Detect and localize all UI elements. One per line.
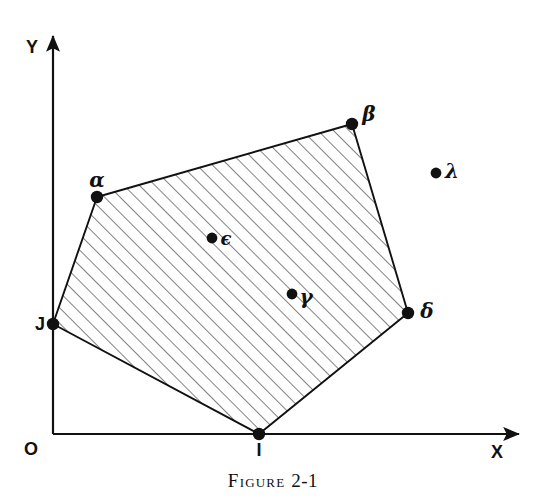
point-label-I: I [256, 441, 261, 459]
x-axis-label: X [491, 443, 503, 461]
caption-label: Figure [228, 470, 285, 491]
point-label-lambda: λ [445, 161, 459, 181]
point-gamma [287, 289, 298, 300]
point-label-J: J [35, 315, 45, 333]
point-I [253, 428, 265, 440]
figure-caption: Figure 2-1 [0, 470, 546, 492]
point-beta [346, 118, 358, 130]
point-J [47, 318, 59, 330]
point-label-beta: β [362, 104, 375, 124]
point-label-epsilon: ϵ [221, 230, 232, 248]
figure-2-1: Y X O J α β δ I ϵ γ λ Figure 2-1 [0, 0, 546, 504]
convex-hull-region [53, 124, 408, 434]
point-epsilon [207, 233, 218, 244]
point-lambda [431, 168, 442, 179]
point-delta [402, 307, 414, 319]
figure-canvas [0, 0, 546, 504]
origin-label: O [24, 440, 38, 458]
y-axis-label: Y [26, 38, 38, 56]
point-alpha [91, 191, 103, 203]
point-label-delta: δ [420, 301, 433, 321]
point-label-alpha: α [89, 170, 104, 190]
hull-fill [53, 124, 408, 434]
caption-number: 2-1 [291, 470, 318, 491]
point-label-gamma: γ [299, 287, 312, 307]
